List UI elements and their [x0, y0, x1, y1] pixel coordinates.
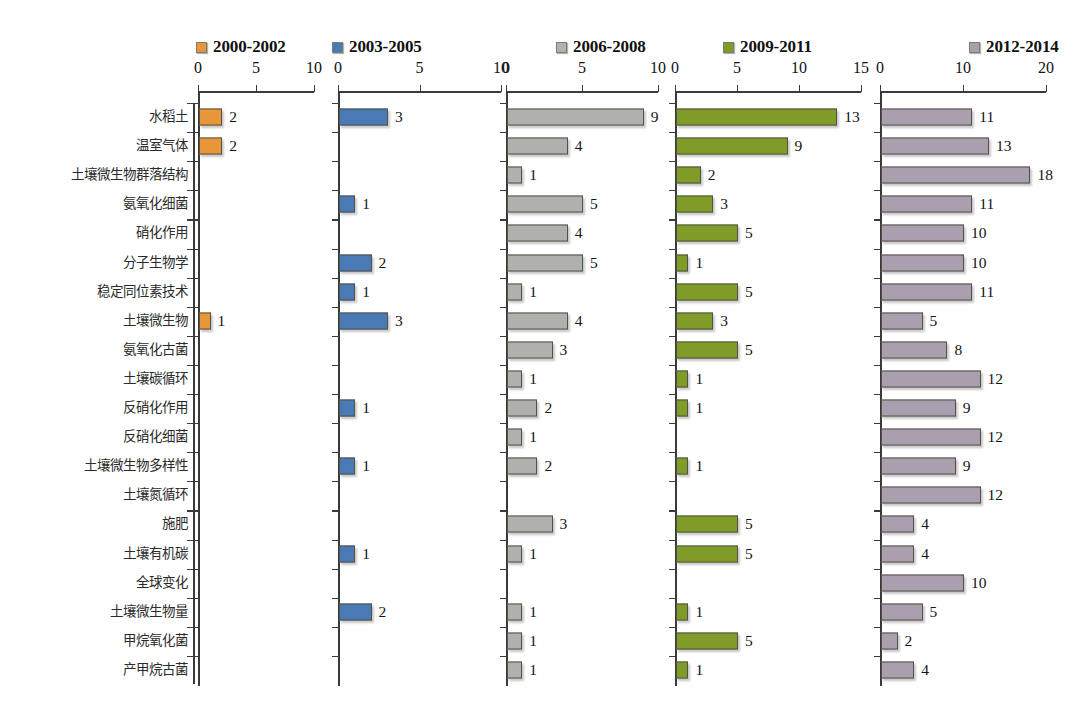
bar[interactable]: [507, 458, 537, 475]
category-label: 反硝化细菌: [0, 430, 188, 444]
bar[interactable]: [676, 632, 738, 649]
bar[interactable]: [676, 109, 837, 126]
bar[interactable]: [881, 109, 972, 126]
row-tick-mark: [874, 510, 880, 511]
bar[interactable]: [881, 487, 981, 504]
legend-item-2000-2002[interactable]: 2000-2002: [196, 34, 286, 60]
bar[interactable]: [676, 661, 688, 678]
legend-item-2006-2008[interactable]: 2006-2008: [556, 34, 646, 60]
bar[interactable]: [339, 545, 355, 562]
bar[interactable]: [507, 632, 522, 649]
legend-label: 2012-2014: [986, 37, 1059, 57]
bar[interactable]: [339, 312, 388, 329]
bar[interactable]: [881, 400, 956, 417]
category-label: 温室气体: [0, 139, 188, 153]
bar[interactable]: [507, 661, 522, 678]
bar[interactable]: [676, 254, 688, 271]
bar[interactable]: [676, 138, 788, 155]
bar[interactable]: [676, 400, 688, 417]
row-tick-mark: [874, 161, 880, 162]
row-tick-mark: [192, 249, 198, 250]
bar[interactable]: [507, 341, 553, 358]
bar[interactable]: [676, 283, 738, 300]
bar[interactable]: [881, 516, 914, 533]
bar[interactable]: [881, 167, 1030, 184]
bar[interactable]: [881, 196, 972, 213]
category-label: 全球变化: [0, 576, 188, 590]
bar[interactable]: [881, 341, 947, 358]
bar[interactable]: [881, 661, 914, 678]
bar[interactable]: [676, 545, 738, 562]
bar-value-label: 3: [560, 342, 568, 358]
bar[interactable]: [881, 429, 981, 446]
legend-item-2003-2005[interactable]: 2003-2005: [332, 34, 422, 60]
bar[interactable]: [339, 458, 355, 475]
row-tick-mark: [669, 510, 675, 511]
bar[interactable]: [507, 167, 522, 184]
bar[interactable]: [881, 545, 914, 562]
bar[interactable]: [881, 138, 989, 155]
row-tick-mark: [332, 481, 338, 482]
bar[interactable]: [339, 400, 355, 417]
legend-item-2009-2011[interactable]: 2009-2011: [723, 34, 812, 60]
bar-value-label: 1: [695, 662, 703, 678]
bar[interactable]: [676, 225, 738, 242]
bar[interactable]: [339, 109, 388, 126]
row-tick-mark: [669, 278, 675, 279]
bar[interactable]: [507, 516, 553, 533]
bar[interactable]: [339, 196, 355, 213]
row-tick-mark: [500, 656, 506, 657]
bar[interactable]: [881, 312, 923, 329]
legend-swatch-icon: [196, 42, 207, 53]
bar[interactable]: [881, 254, 964, 271]
bar[interactable]: [881, 574, 964, 591]
bar[interactable]: [507, 312, 568, 329]
bar[interactable]: [676, 341, 738, 358]
bar-value-label: 3: [560, 517, 568, 533]
row-tick-mark: [192, 365, 198, 366]
bar-value-label: 12: [988, 488, 1004, 504]
bar[interactable]: [339, 283, 355, 300]
bar[interactable]: [881, 632, 898, 649]
bar[interactable]: [881, 283, 972, 300]
bar[interactable]: [881, 370, 981, 387]
bar[interactable]: [199, 109, 222, 126]
row-tick-mark: [874, 394, 880, 395]
category-label: 土壤碳循环: [0, 372, 188, 386]
bar[interactable]: [507, 283, 522, 300]
row-tick-mark: [669, 452, 675, 453]
bar[interactable]: [507, 400, 537, 417]
row-tick-mark: [332, 132, 338, 133]
bar[interactable]: [339, 254, 372, 271]
bar-value-label: 2: [544, 458, 552, 474]
bar[interactable]: [676, 370, 688, 387]
bar[interactable]: [881, 458, 956, 475]
bar[interactable]: [507, 254, 583, 271]
category-label: 分子生物学: [0, 256, 188, 270]
row-tick-mark: [332, 365, 338, 366]
bar[interactable]: [507, 109, 644, 126]
x-tick-label: 0: [194, 60, 202, 76]
bar[interactable]: [676, 516, 738, 533]
row-tick-mark: [669, 103, 675, 104]
bar[interactable]: [507, 545, 522, 562]
bar[interactable]: [676, 312, 713, 329]
bar[interactable]: [339, 603, 372, 620]
bar[interactable]: [676, 458, 688, 475]
bar[interactable]: [881, 225, 964, 242]
row-tick-mark: [669, 132, 675, 133]
bar[interactable]: [199, 138, 222, 155]
bar[interactable]: [676, 196, 713, 213]
legend-item-2012-2014[interactable]: 2012-2014: [969, 34, 1059, 60]
bar[interactable]: [507, 603, 522, 620]
bar[interactable]: [507, 429, 522, 446]
bar[interactable]: [507, 225, 568, 242]
bar[interactable]: [676, 167, 701, 184]
bar[interactable]: [507, 196, 583, 213]
bar[interactable]: [199, 312, 211, 329]
bar[interactable]: [507, 370, 522, 387]
bar[interactable]: [881, 603, 923, 620]
bar[interactable]: [507, 138, 568, 155]
bar-value-label: 11: [979, 109, 994, 125]
bar[interactable]: [676, 603, 688, 620]
